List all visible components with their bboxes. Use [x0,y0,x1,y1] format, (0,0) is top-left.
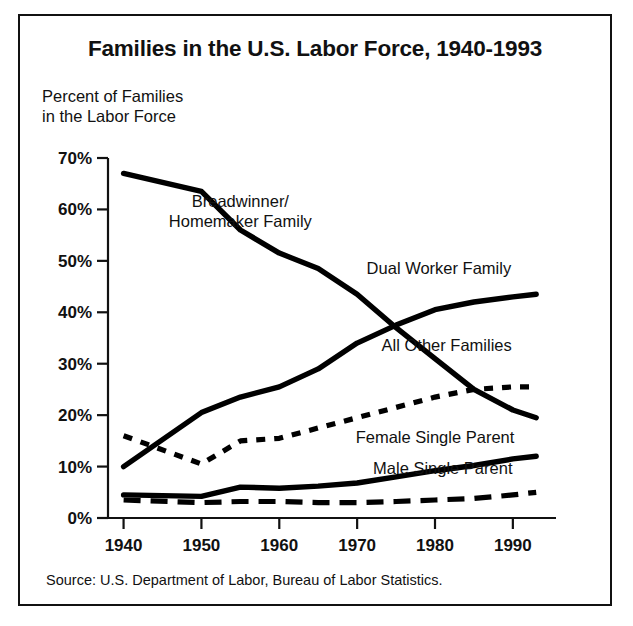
series-label: Male Single Parent [373,459,513,477]
series-label: Female Single Parent [356,428,515,446]
y-tick-label: 60% [58,200,92,219]
y-tick-label: 20% [58,406,92,425]
series-label: Breadwinner/ [192,192,290,210]
y-tick-label: 50% [58,252,92,271]
x-tick-label: 1980 [416,536,454,555]
x-tick-label: 1950 [183,536,221,555]
x-tick-label: 1960 [260,536,298,555]
y-tick-label: 40% [58,303,92,322]
series-label: Dual Worker Family [367,259,512,277]
x-tick-label: 1970 [338,536,376,555]
y-tick-label: 30% [58,355,92,374]
series-line [124,173,537,417]
source-note: Source: U.S. Department of Labor, Bureau… [46,572,443,588]
series-label: Homemaker Family [169,212,313,230]
series-label: All Other Families [382,336,512,354]
chart-figure: Families in the U.S. Labor Force, 1940-1… [18,14,612,606]
y-tick-label: 10% [58,458,92,477]
line-chart-plot: 0%10%20%30%40%50%60%70%19401950196019701… [20,16,614,608]
y-tick-label: 70% [58,149,92,168]
chart-annotations: Breadwinner/Homemaker FamilyDual Worker … [169,192,515,477]
y-tick-label: 0% [67,509,92,528]
x-tick-label: 1990 [494,536,532,555]
x-tick-label: 1940 [105,536,143,555]
